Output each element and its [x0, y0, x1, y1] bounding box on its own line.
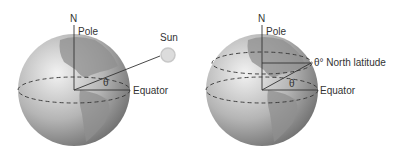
north-label: N — [70, 13, 77, 24]
sun-icon — [161, 48, 175, 62]
equator-label: Equator — [133, 85, 169, 96]
sun-label: Sun — [160, 32, 178, 43]
sun: Sun — [160, 32, 178, 62]
angle-label: θ — [103, 77, 109, 88]
pole-label: Pole — [78, 26, 98, 37]
right-globe: θ N Pole θ° North latitude Equator — [206, 13, 386, 146]
angle-label: θ — [289, 78, 295, 89]
pole-label: Pole — [266, 26, 286, 37]
north-label: N — [258, 13, 265, 24]
latitude-diagram: θ N Pole Equator Sun θ N Pole θ° North l… — [0, 0, 395, 154]
equator-label: Equator — [320, 85, 356, 96]
latitude-label: θ° North latitude — [314, 57, 386, 68]
left-globe: θ N Pole Equator — [18, 13, 169, 146]
